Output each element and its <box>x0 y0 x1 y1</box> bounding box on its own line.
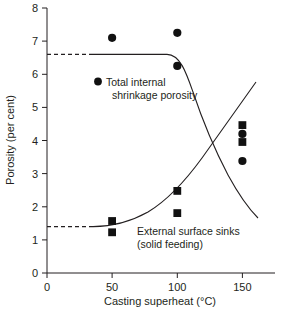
external-sinks-trend-line <box>92 82 256 227</box>
trend-curve-external-sinks <box>47 82 256 227</box>
series-external-sinks-markers <box>108 121 246 236</box>
data-point-square <box>173 187 181 195</box>
y-tick-label-6: 6 <box>32 68 38 80</box>
x-tick-label-100: 100 <box>168 281 186 293</box>
annotation-circle-marker-icon <box>94 78 102 86</box>
annotation-internal-shrinkage: Total internal shrinkage porosity <box>94 76 198 101</box>
data-point-square <box>173 209 181 217</box>
data-point-square <box>239 121 247 129</box>
annotation-internal-shrinkage-line1: Total internal <box>106 76 166 88</box>
x-tick-label-50: 50 <box>106 281 118 293</box>
y-tick-label-1: 1 <box>32 234 38 246</box>
y-tick-label-4: 4 <box>32 135 38 147</box>
y-tick-label-5: 5 <box>32 101 38 113</box>
annotation-external-sinks: External surface sinks (solid feeding) <box>137 225 240 250</box>
y-tick-label-7: 7 <box>32 35 38 47</box>
data-point-circle <box>108 34 116 42</box>
y-axis-title: Porosity (per cent) <box>4 95 16 185</box>
porosity-vs-superheat-chart: 0 1 2 3 4 5 6 7 8 0 50 100 150 Casting s… <box>0 0 281 309</box>
x-tick-label-0: 0 <box>44 281 50 293</box>
annotation-external-sinks-line2: (solid feeding) <box>137 238 203 250</box>
annotation-internal-shrinkage-line2: shrinkage porosity <box>112 89 198 101</box>
data-point-circle <box>173 29 181 37</box>
data-point-square <box>239 138 247 146</box>
annotation-external-sinks-line1: External surface sinks <box>137 225 240 237</box>
data-point-circle <box>238 130 246 138</box>
y-axis: 0 1 2 3 4 5 6 7 8 <box>32 2 47 279</box>
y-tick-label-2: 2 <box>32 201 38 213</box>
y-tick-label-3: 3 <box>32 168 38 180</box>
data-point-circle <box>173 62 181 70</box>
x-axis: 0 50 100 150 <box>44 273 275 293</box>
chart-canvas: 0 1 2 3 4 5 6 7 8 0 50 100 150 Casting s… <box>0 0 281 309</box>
y-tick-label-8: 8 <box>32 2 38 14</box>
data-point-circle <box>238 157 246 165</box>
data-point-square <box>108 228 116 236</box>
y-tick-label-0: 0 <box>32 267 38 279</box>
data-point-square <box>108 217 116 225</box>
x-tick-label-150: 150 <box>233 281 251 293</box>
x-axis-title: Casting superheat (°C) <box>104 295 216 307</box>
